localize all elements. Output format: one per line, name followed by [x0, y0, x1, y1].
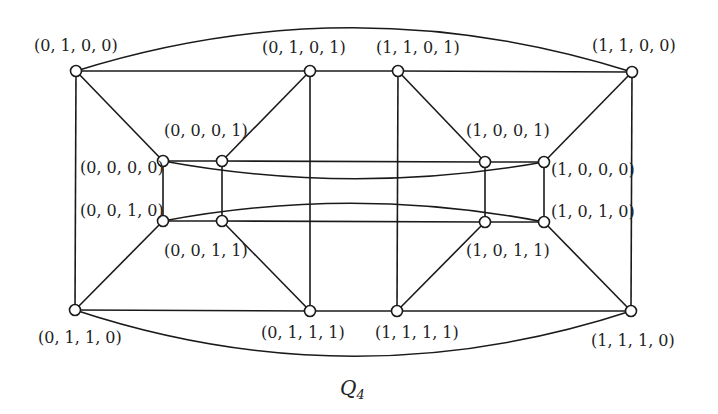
vertex-label-0100: (0, 1, 0, 0)	[34, 36, 118, 55]
vertex-label-0011: (0, 0, 1, 1)	[164, 241, 248, 260]
edge-1100-1000	[544, 72, 632, 162]
curved-edge-0100-1100	[76, 28, 632, 72]
vertex-1100	[627, 67, 638, 78]
edge-1101-1111	[397, 71, 398, 311]
edge-0101-0001	[222, 71, 310, 161]
vertex-0100	[71, 66, 82, 77]
vertex-0011	[217, 216, 228, 227]
edge-0111-0011	[222, 221, 310, 311]
vertex-label-1010: (1, 0, 1, 0)	[551, 202, 635, 221]
edge-0001-1001	[222, 161, 485, 162]
vertex-0101	[305, 66, 316, 77]
vertex-0110	[70, 305, 81, 316]
vertex-1110	[626, 306, 637, 317]
edge-0110-0010	[75, 221, 163, 310]
vertex-1011	[480, 217, 491, 228]
vertex-label-0101: (0, 1, 0, 1)	[262, 38, 346, 57]
vertex-label-1001: (1, 0, 0, 1)	[466, 121, 550, 140]
vertex-label-0000: (0, 0, 0, 0)	[80, 158, 164, 177]
hypercube-q4-diagram: (0, 1, 0, 0)(0, 1, 0, 1)(1, 1, 0, 1)(1, …	[0, 0, 718, 414]
vertex-0001	[217, 156, 228, 167]
edges-layer	[75, 28, 632, 357]
vertex-label-0010: (0, 0, 1, 0)	[80, 201, 164, 220]
edge-0011-1011	[222, 221, 485, 222]
vertex-label-0001: (0, 0, 0, 1)	[164, 121, 248, 140]
vertex-1111	[392, 306, 403, 317]
edge-1100-1110	[631, 72, 632, 311]
edge-1111-1011	[397, 222, 485, 311]
vertex-label-1011: (1, 0, 1, 1)	[466, 241, 550, 260]
nodes-layer	[70, 66, 638, 317]
diagram-caption: Q4	[340, 376, 365, 402]
vertex-label-1000: (1, 0, 0, 0)	[551, 160, 635, 179]
edge-0110-0111	[75, 310, 310, 311]
edge-1101-1001	[398, 71, 485, 162]
vertex-1101	[393, 66, 404, 77]
vertex-1010	[539, 217, 550, 228]
vertex-1000	[539, 157, 550, 168]
vertex-label-0110: (0, 1, 1, 0)	[38, 328, 122, 347]
vertex-label-1110: (1, 1, 1, 0)	[591, 331, 675, 350]
vertex-1001	[480, 157, 491, 168]
vertex-label-1100: (1, 1, 0, 0)	[592, 36, 676, 55]
vertex-0111	[305, 306, 316, 317]
curved-edge-0110-1110	[75, 310, 631, 356]
vertex-label-1101: (1, 1, 0, 1)	[376, 38, 460, 57]
labels-layer: (0, 1, 0, 0)(0, 1, 0, 1)(1, 1, 0, 1)(1, …	[34, 36, 676, 350]
vertex-label-1111: (1, 1, 1, 1)	[375, 323, 459, 342]
caption-title: Q	[340, 376, 356, 400]
vertex-label-0111: (0, 1, 1, 1)	[261, 323, 345, 342]
edge-1101-1100	[398, 71, 632, 72]
edge-0100-0000	[76, 71, 163, 161]
caption-subscript: 4	[355, 387, 364, 402]
edge-1110-1010	[544, 222, 631, 311]
edge-0100-0110	[75, 71, 76, 310]
